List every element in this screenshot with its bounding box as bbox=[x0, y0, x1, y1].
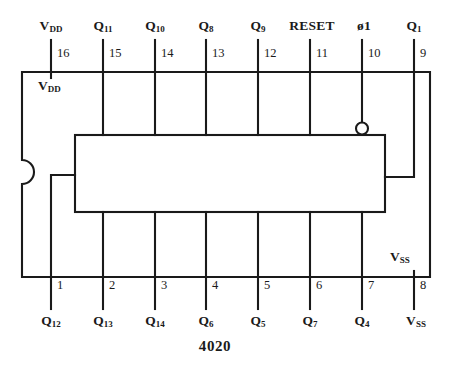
pin-number-1: 1 bbox=[57, 279, 63, 292]
pin-number-11: 11 bbox=[316, 47, 328, 60]
signal-label-pin-15: Q11 bbox=[93, 19, 112, 33]
pin-number-16: 16 bbox=[57, 47, 70, 60]
inversion-bubble-icon bbox=[356, 123, 368, 135]
signal-label-pin-9: Q1 bbox=[406, 19, 421, 33]
pin-number-9: 9 bbox=[420, 47, 426, 60]
pin-number-5: 5 bbox=[264, 279, 270, 292]
part-number-caption: 4020 bbox=[199, 339, 231, 354]
signal-label-pin-5: Q5 bbox=[250, 314, 265, 328]
pin-number-14: 14 bbox=[161, 47, 174, 60]
signal-label-pin-6: Q7 bbox=[302, 314, 317, 328]
pin-number-7: 7 bbox=[368, 279, 374, 292]
trace-9 bbox=[385, 72, 414, 177]
signal-label-pin-14: Q10 bbox=[145, 19, 165, 33]
package-outline bbox=[22, 72, 430, 277]
internal-rail-label-vdd: VDD bbox=[38, 79, 61, 93]
signal-label-pin-13: Q8 bbox=[198, 19, 213, 33]
pin-number-12: 12 bbox=[264, 47, 277, 60]
signal-label-pin-11: RESET bbox=[289, 19, 334, 33]
internal-rail-label-vss: VSS bbox=[390, 250, 410, 264]
pin-number-10: 10 bbox=[368, 47, 381, 60]
signal-label-pin-7: Q4 bbox=[354, 314, 369, 328]
logic-block-rect bbox=[75, 135, 385, 212]
signal-label-pin-2: Q13 bbox=[93, 314, 113, 328]
ic-pinout-diagram: VDD Q11 Q10 Q8 Q9 RESET ø1 Q1 16 15 14 1… bbox=[0, 0, 451, 369]
signal-label-pin-16: VDD bbox=[40, 19, 63, 33]
signal-label-pin-10: ø1 bbox=[357, 19, 371, 33]
pin-number-8: 8 bbox=[420, 279, 426, 292]
signal-label-pin-4: Q6 bbox=[198, 314, 213, 328]
pin-number-6: 6 bbox=[316, 279, 322, 292]
signal-label-pin-12: Q9 bbox=[250, 19, 265, 33]
pin-number-4: 4 bbox=[212, 279, 218, 292]
trace-1 bbox=[51, 175, 75, 277]
signal-label-pin-3: Q14 bbox=[145, 314, 165, 328]
pin-number-15: 15 bbox=[109, 47, 122, 60]
pin-number-2: 2 bbox=[109, 279, 115, 292]
signal-label-pin-8: VSS bbox=[406, 314, 426, 328]
signal-label-pin-1: Q12 bbox=[41, 314, 61, 328]
pin-number-3: 3 bbox=[161, 279, 167, 292]
pin-number-13: 13 bbox=[212, 47, 225, 60]
